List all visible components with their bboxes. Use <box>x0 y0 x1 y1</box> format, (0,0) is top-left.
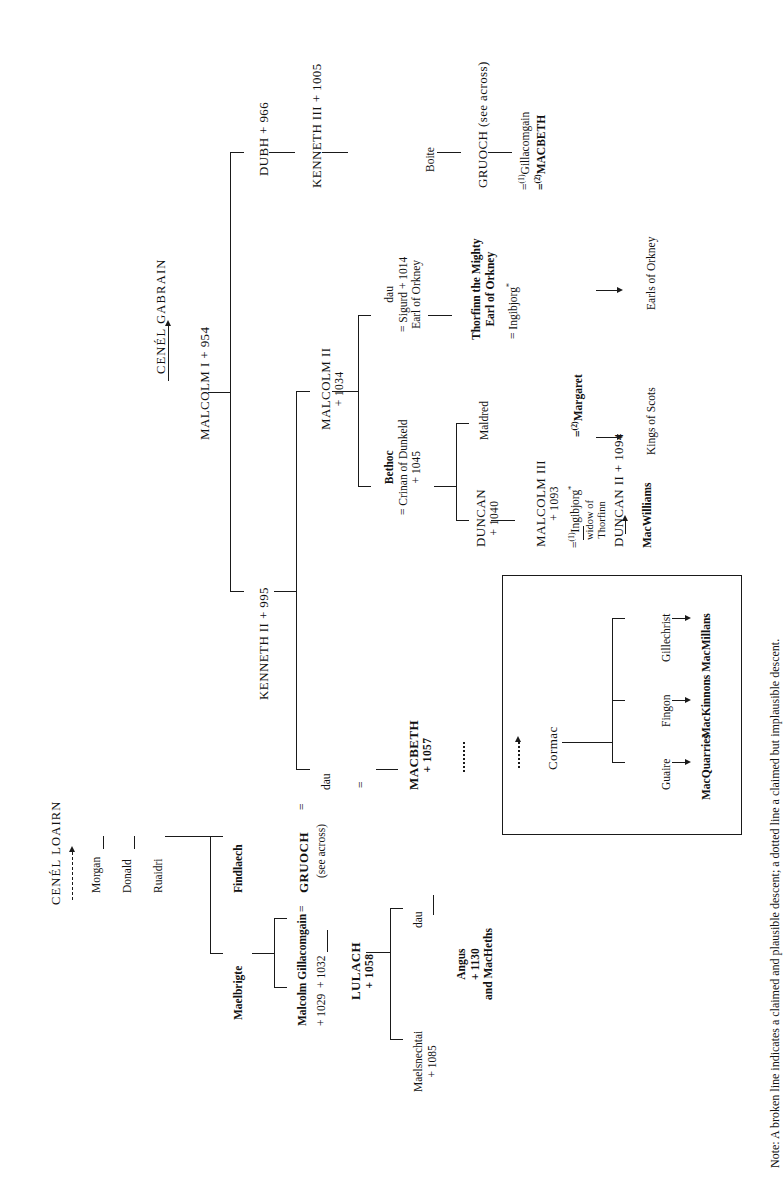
node-macbeth: MACBETH + 1057 <box>406 720 435 790</box>
donald-ruaidri-link <box>134 836 135 849</box>
branch-to-duncan-i <box>456 520 469 521</box>
malcolm-ii-name: MALCOLM II <box>318 348 333 430</box>
lulach-name: LULACH <box>348 942 363 1000</box>
equals-sign-4: = <box>572 430 584 437</box>
earls-of-orkney-line <box>596 290 618 291</box>
node-duncan-i: DUNCAN + 1040 <box>473 489 502 547</box>
node-dau-of-kenneth-ii: dau <box>320 773 334 790</box>
gruoch-see-across-note: (see across) <box>315 824 329 878</box>
cormac-stub <box>562 742 612 743</box>
gillacomgain-label: Gillacomgain <box>519 112 531 175</box>
node-kings-of-scots: Kings of Scots <box>645 387 659 455</box>
malcolm-i-stub <box>208 392 230 393</box>
node-dubh: DUBH + 966 <box>256 102 271 176</box>
macheths-label: and MacHeths <box>482 928 496 1000</box>
equals-sign-2: = <box>535 183 547 190</box>
node-malcolm-gillacomgain-dates: + 1029 + 1032 <box>315 956 329 1027</box>
dau-label: dau <box>383 257 397 332</box>
macwilliams-arrow-icon <box>622 515 628 521</box>
node-donald: Donald <box>121 859 135 893</box>
malcolm-iii-wife-2: =(2)Margaret <box>570 374 585 437</box>
cormac-children-spine <box>612 618 613 763</box>
node-boite: Boite <box>424 147 438 172</box>
ruaidri-stub <box>165 836 210 837</box>
branch-to-guaire <box>612 762 625 763</box>
lulach-stub <box>366 952 390 953</box>
bethoc-spouse-crinan: = Crinan of Dunkeld <box>397 419 411 515</box>
node-macquarries: MacQuarries <box>700 734 714 800</box>
dau-spouse-sigurd: = Sigurd + 1014 <box>397 257 411 332</box>
node-maldred: Maldred <box>478 401 492 440</box>
footnote: Note: A broken line indicates a claimed … <box>768 639 782 1168</box>
malcolm-i-children-spine <box>230 152 231 592</box>
thorfinn-title: Earl of Orkney <box>484 238 498 340</box>
gillacomgain-label-loairn: Gillacomgain <box>296 914 308 980</box>
malcolm-iii-wife-1-note: widow of Thorfinn <box>584 500 609 540</box>
margaret-label: Margaret <box>572 374 584 421</box>
node-maelsnechtai: Maelsnechtai + 1085 <box>412 1031 439 1092</box>
thorfinn-name: Thorfinn the Mighty <box>470 238 484 340</box>
marriage-order-2: (2) <box>533 174 542 183</box>
node-maelbrigte: Maelbrigte <box>232 966 246 1020</box>
malcolm-iii-name: MALCOLM III <box>533 460 548 547</box>
kings-of-scots-line <box>596 437 618 438</box>
node-macwilliams: MacWilliams <box>641 482 655 548</box>
node-kenneth-iii: KENNETH III + 1005 <box>309 63 324 188</box>
lulach-date: + 1058 <box>363 942 377 1000</box>
lulach-children-spine <box>390 908 391 1040</box>
marriage-order-1: (1) <box>517 174 526 183</box>
crinan-stub <box>434 486 456 487</box>
node-mackinnons: MacKinnons <box>700 675 714 738</box>
ruaidri-children-spine <box>210 836 211 954</box>
gillacomgain-gruoch-equals-right: = <box>296 804 310 811</box>
maelsnechtai-date: + 1085 <box>426 1031 440 1092</box>
thorfinn-spouse-ingibjorg: = Ingibjorg* <box>505 283 520 339</box>
node-malcolm-i: MALCOLM I + 954 <box>197 327 212 440</box>
dau-macbeth-equals: = <box>355 782 369 789</box>
node-gillechrist: Gillechrist <box>660 613 674 662</box>
dau-spouse-title: Earl of Orkney <box>410 257 424 332</box>
branch-to-dau-of-lulach <box>390 908 403 909</box>
guaire-arrow-icon <box>685 759 691 765</box>
malcolm-iii-date: + 1093 <box>548 460 562 547</box>
family-tree-page: CENÉL GABRAIN MALCOLM I + 954 DUBH + 966… <box>0 0 783 1177</box>
node-dau-of-lulach: dau <box>412 911 426 928</box>
branch-to-malcolm-gillacomgain-a <box>274 918 287 919</box>
ingibjorg-label: Ingibjorg <box>569 490 581 533</box>
gillacomgain-date: + 1032 <box>315 956 327 988</box>
node-bethoc: Bethoc = Crinan of Dunkeld + 1045 <box>383 419 424 515</box>
equals-sign-3: = <box>569 542 581 549</box>
morgan-donald-link <box>103 836 104 849</box>
node-lulach: LULACH + 1058 <box>348 942 377 1000</box>
node-guaire: Guaire <box>660 759 674 790</box>
equals-sign-1: = <box>519 184 531 191</box>
branch-to-gillechrist <box>612 618 625 619</box>
node-earls-of-orkney: Earls of Orkney <box>645 237 659 310</box>
malcolm-label: Malcolm <box>296 983 308 1026</box>
dau-to-macbeth-line <box>376 769 398 770</box>
gruoch-marriage-line <box>488 152 512 153</box>
fingon-arrow-icon <box>685 697 691 703</box>
thorfinn-spouse-label: = Ingibjorg <box>507 287 519 339</box>
branch-to-malcolm-ii <box>296 391 310 392</box>
macbeth-label: MACBETH <box>535 115 547 174</box>
branch-to-maelbrigte <box>210 953 223 954</box>
gruoch-to-lulach-link <box>327 930 328 952</box>
node-morgan: Morgan <box>90 857 104 893</box>
node-macmillans: MacMillans <box>700 613 714 672</box>
malcolm-date: + 1029 <box>315 994 327 1026</box>
asterisk-marker-1: * <box>505 283 514 287</box>
branch-to-bethoc <box>358 486 371 487</box>
branch-to-dubh <box>230 152 244 153</box>
sigurd-to-thorfinn-line <box>428 315 452 316</box>
node-findlaech: Findlaech <box>232 844 246 893</box>
branch-to-maelsnechtai <box>390 1039 403 1040</box>
maelbrigte-stub <box>252 953 274 954</box>
branch-to-dau-sigurd <box>358 315 371 316</box>
branch-to-findlaech <box>210 836 223 837</box>
fingon-descendant-line <box>672 700 686 701</box>
boite-to-gruoch-line <box>437 152 461 153</box>
angus-name: Angus <box>455 928 469 1000</box>
crinan-children-spine <box>456 423 457 521</box>
kenneth-ii-children-spine <box>296 391 297 770</box>
